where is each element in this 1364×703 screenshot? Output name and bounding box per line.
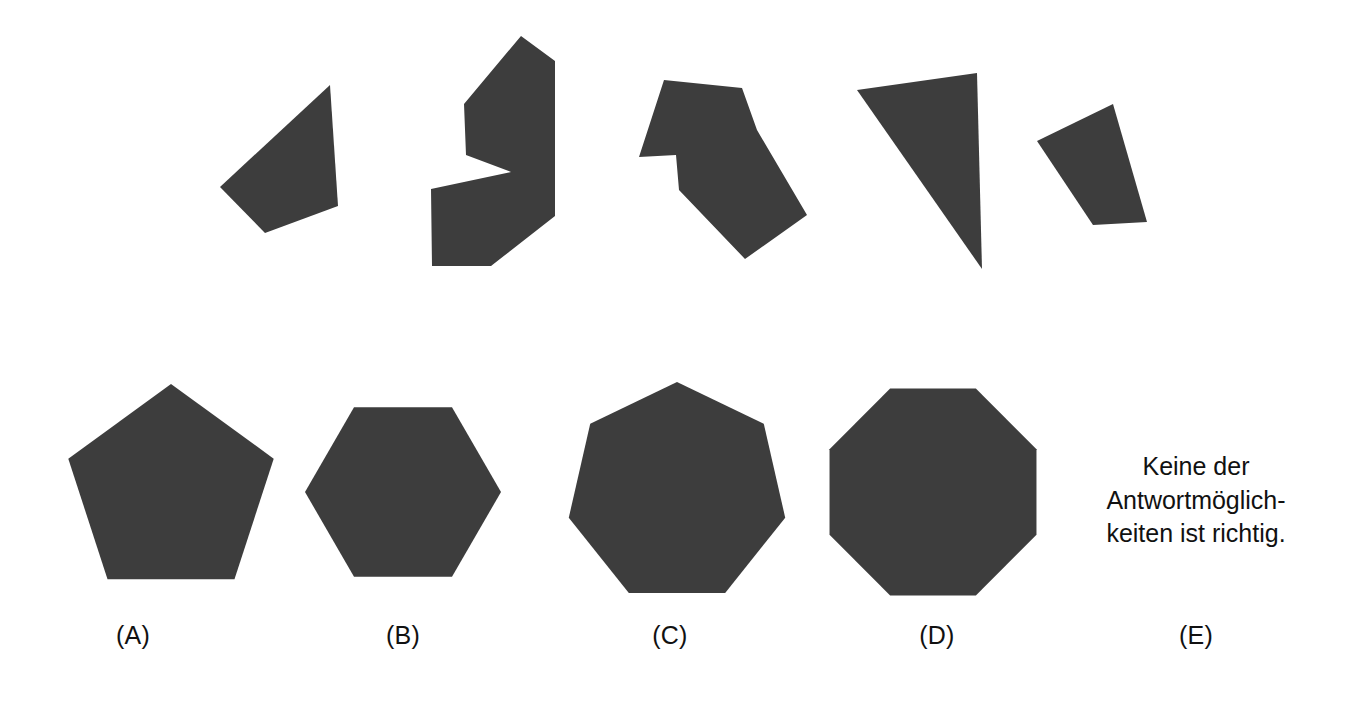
answer-shape-a[interactable]: [68, 384, 273, 579]
answer-shape-b[interactable]: [305, 407, 501, 577]
stimulus-piece-5: [1037, 104, 1147, 225]
answer-shape-c[interactable]: [569, 382, 785, 593]
answer-shape-d[interactable]: [830, 389, 1037, 596]
answer-label-e[interactable]: (E): [1136, 623, 1256, 648]
shapes-svg: [0, 0, 1364, 703]
stimulus-piece-4: [857, 73, 982, 269]
stimulus-piece-1: [220, 85, 338, 233]
answer-label-c[interactable]: (C): [610, 623, 730, 648]
answer-option-e-text[interactable]: Keine der Antwortmöglich- keiten ist ric…: [1076, 450, 1316, 551]
answer-label-d[interactable]: (D): [877, 623, 997, 648]
answer-label-a[interactable]: (A): [73, 623, 193, 648]
stimulus-piece-2: [431, 36, 555, 266]
stimulus-piece-3: [639, 80, 807, 259]
answer-option-shapes: [68, 382, 1036, 595]
stimulus-pieces: [220, 36, 1147, 269]
figure-canvas: [0, 0, 1364, 703]
answer-label-b[interactable]: (B): [343, 623, 463, 648]
exercise-page: Keine der Antwortmöglich- keiten ist ric…: [0, 0, 1364, 703]
